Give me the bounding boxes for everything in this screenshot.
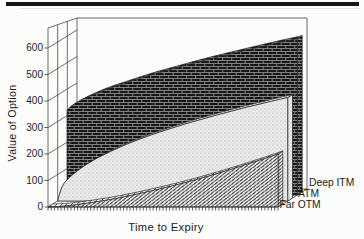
y-tick-label-0: 0: [37, 201, 43, 212]
series-label-atm: ATM: [298, 188, 319, 199]
y-tick-label-400: 400: [26, 95, 43, 106]
top-rule: [6, 2, 359, 6]
option-value-3d-area-chart: 0100200300400500600Far OTMATMDeep ITM: [0, 0, 364, 239]
scanned-figure: 0100200300400500600Far OTMATMDeep ITM Ti…: [0, 0, 364, 239]
series-label-far-otm: Far OTM: [280, 199, 321, 210]
y-tick-label-200: 200: [26, 148, 43, 159]
y-tick-label-600: 600: [26, 42, 43, 53]
ribbon-right-face: [288, 95, 293, 201]
y-axis-title: Value of Option: [6, 63, 20, 183]
ribbon-right-face: [297, 36, 302, 195]
top-rule-shadow: [20, 8, 360, 9]
series-ribbons: [48, 36, 302, 207]
series-label-deep-itm: Deep ITM: [309, 177, 354, 188]
y-tick-label-100: 100: [26, 175, 43, 186]
y-tick-label-300: 300: [26, 122, 43, 133]
y-tick-label-500: 500: [26, 69, 43, 80]
x-axis-title: Time to Expiry: [66, 221, 266, 233]
